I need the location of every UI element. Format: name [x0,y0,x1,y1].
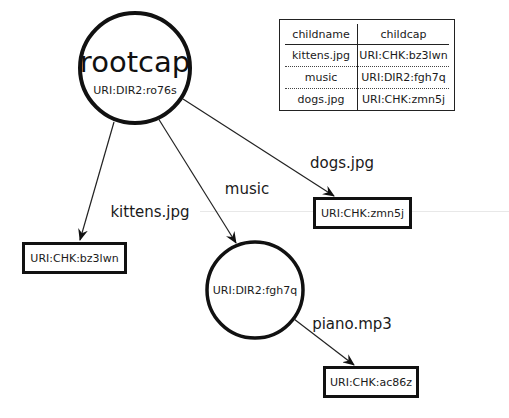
header-childcap: childcap [358,24,450,45]
piano-file-node: URI:CHK:ac86z [323,366,419,398]
kittens-uri: URI:CHK:bz3lwn [30,252,118,265]
cell-childname: kittens.jpg [285,45,358,67]
dogs-uri: URI:CHK:zmn5j [321,207,404,220]
cell-childname: music [285,67,358,89]
directory-table: childname childcap kittens.jpg URI:CHK:b… [279,19,455,111]
header-childname: childname [285,24,358,45]
table-row: dogs.jpg URI:CHK:zmn5j [285,89,449,111]
dogs-file-node: URI:CHK:zmn5j [313,197,412,229]
edge-label-dogs: dogs.jpg [310,154,374,172]
table-row: music URI:DIR2:fgh7q [285,67,449,89]
music-uri: URI:DIR2:fgh7q [213,284,298,297]
kittens-file-node: URI:CHK:bz3lwn [22,242,127,274]
edge-label-piano: piano.mp3 [312,315,392,333]
cell-childcap: URI:DIR2:fgh7q [358,67,450,89]
table-row: kittens.jpg URI:CHK:bz3lwn [285,45,449,67]
piano-uri: URI:CHK:ac86z [330,376,412,389]
cell-childcap: URI:CHK:zmn5j [358,89,450,111]
cell-childname: dogs.jpg [285,89,358,111]
edge-kittens [80,122,114,240]
edge-label-kittens: kittens.jpg [110,203,189,221]
cell-childcap: URI:CHK:bz3lwn [358,45,450,67]
root-uri: URI:DIR2:ro76s [93,84,176,97]
root-title: rootcap [80,45,190,79]
edge-label-music: music [225,180,269,198]
